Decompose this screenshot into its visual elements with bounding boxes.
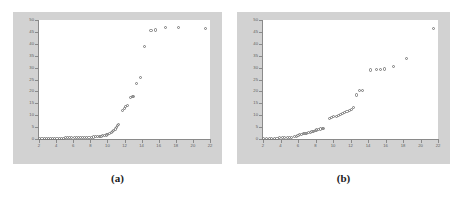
data-point (405, 57, 408, 60)
y-axis-label: 30 (253, 65, 258, 69)
x-axis-label: 10 (331, 144, 336, 148)
x-axis-label: 4 (55, 144, 57, 148)
y-axis-tick (259, 103, 263, 104)
y-axis-tick (35, 115, 39, 116)
y-axis-tick (259, 80, 263, 81)
y-axis-label: 25 (29, 77, 34, 81)
y-axis-tick (259, 91, 263, 92)
x-axis-label: 10 (105, 144, 110, 148)
data-point (432, 27, 435, 30)
data-point (139, 76, 142, 79)
x-axis-label: 22 (208, 144, 213, 148)
x-axis-label: 16 (156, 144, 161, 148)
y-axis-tick (259, 115, 263, 116)
data-point (383, 67, 386, 70)
data-point (164, 26, 167, 29)
x-axis-label: 14 (366, 144, 371, 148)
x-axis-label: 16 (383, 144, 388, 148)
y-axis-label: 0 (32, 137, 34, 141)
data-point (204, 27, 207, 30)
y-axis-tick (259, 44, 263, 45)
y-axis-label: 40 (253, 42, 258, 46)
data-point (117, 123, 120, 126)
x-axis-label: 14 (139, 144, 144, 148)
caption-a: (a) (13, 172, 222, 184)
data-point (392, 65, 395, 68)
y-axis-label: 45 (253, 30, 258, 34)
y-axis-label: 0 (256, 137, 258, 141)
x-axis-label: 20 (191, 144, 196, 148)
y-axis-label: 25 (253, 77, 258, 81)
data-point (135, 82, 138, 85)
y-axis-tick (35, 91, 39, 92)
y-axis-label: 10 (253, 113, 258, 117)
plot-area-b: 05101520253035404550246810121416182022 (262, 20, 438, 140)
x-axis-label: 8 (314, 144, 316, 148)
data-point (126, 104, 129, 107)
data-point (369, 68, 372, 71)
data-point (375, 68, 378, 71)
x-axis-label: 2 (38, 144, 40, 148)
x-axis-label: 4 (279, 144, 281, 148)
data-point (177, 26, 180, 29)
y-axis-tick (259, 20, 263, 21)
y-axis-tick (35, 20, 39, 21)
data-point (322, 127, 325, 130)
data-point (379, 68, 382, 71)
y-axis-tick (35, 80, 39, 81)
y-axis-label: 35 (29, 54, 34, 58)
panel-a: 05101520253035404550246810121416182022 (13, 12, 222, 164)
data-point (149, 29, 152, 32)
data-point (154, 28, 157, 31)
x-axis-label: 12 (122, 144, 127, 148)
data-point (361, 89, 364, 92)
y-axis-label: 20 (253, 89, 258, 93)
data-point (143, 45, 146, 48)
y-axis-label: 15 (253, 101, 258, 105)
y-axis-tick (259, 127, 263, 128)
y-axis-label: 35 (253, 54, 258, 58)
y-axis-label: 50 (29, 18, 34, 22)
panel-b: 05101520253035404550246810121416182022 (237, 12, 450, 164)
y-axis-tick (259, 56, 263, 57)
y-axis-label: 10 (29, 113, 34, 117)
y-axis-tick (35, 32, 39, 33)
y-axis-label: 30 (29, 65, 34, 69)
y-axis-tick (35, 68, 39, 69)
y-axis-label: 50 (253, 18, 258, 22)
plot-area-a: 05101520253035404550246810121416182022 (38, 20, 210, 140)
y-axis-label: 45 (29, 30, 34, 34)
y-axis-tick (35, 127, 39, 128)
x-axis-label: 6 (72, 144, 74, 148)
y-axis-label: 20 (29, 89, 34, 93)
y-axis-tick (35, 56, 39, 57)
y-axis-tick (35, 44, 39, 45)
x-axis-label: 12 (348, 144, 353, 148)
x-axis-label: 18 (173, 144, 178, 148)
y-axis-label: 40 (29, 42, 34, 46)
x-axis-label: 20 (418, 144, 423, 148)
x-axis-label: 2 (262, 144, 264, 148)
x-axis-label: 6 (297, 144, 299, 148)
figure-container: 05101520253035404550246810121416182022 (… (0, 0, 461, 200)
data-point (355, 93, 358, 96)
y-axis-label: 5 (32, 125, 34, 129)
data-point (352, 106, 355, 109)
y-axis-label: 5 (256, 125, 258, 129)
data-point (132, 95, 135, 98)
x-axis-label: 18 (401, 144, 406, 148)
y-axis-tick (259, 68, 263, 69)
x-axis-label: 22 (436, 144, 441, 148)
y-axis-label: 15 (29, 101, 34, 105)
y-axis-tick (35, 103, 39, 104)
caption-b: (b) (237, 172, 450, 184)
x-axis-label: 8 (89, 144, 91, 148)
y-axis-tick (259, 32, 263, 33)
